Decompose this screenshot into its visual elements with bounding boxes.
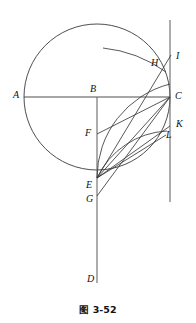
point-label-g: G <box>86 194 93 204</box>
point-label-l: L <box>166 130 172 140</box>
point-label-i: I <box>176 51 179 61</box>
point-label-h: H <box>151 58 158 68</box>
point-label-e: E <box>86 180 92 190</box>
point-label-f: F <box>85 128 91 138</box>
point-label-b: B <box>90 84 96 94</box>
arc-e-to-l <box>97 84 170 178</box>
point-label-a: A <box>13 90 19 100</box>
segment-fc <box>97 97 170 134</box>
point-label-d: D <box>87 274 94 284</box>
segment-gc <box>97 97 170 196</box>
geometry-figure <box>0 0 196 323</box>
figure-caption: 图 3-52 <box>0 302 196 316</box>
segment-ec <box>97 97 170 178</box>
point-label-k: K <box>176 119 183 129</box>
point-label-c: C <box>175 91 182 101</box>
